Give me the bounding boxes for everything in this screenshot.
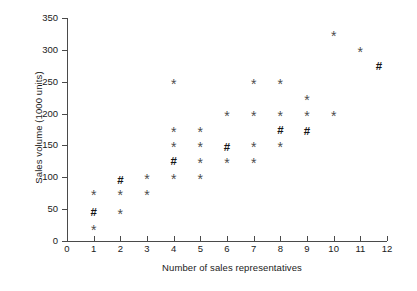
y-tick-label: 250 [30, 77, 58, 87]
x-tick-mark [334, 236, 335, 241]
x-tick-label: 5 [188, 243, 212, 254]
data-point: * [118, 208, 123, 220]
data-point: # [170, 155, 176, 167]
data-point: * [198, 126, 203, 138]
y-tick-mark [62, 241, 67, 242]
data-point: # [304, 125, 310, 137]
data-point: * [144, 189, 149, 201]
data-point: * [171, 126, 176, 138]
data-point: # [117, 174, 123, 186]
y-tick-label: 350 [30, 13, 58, 23]
data-point: * [91, 224, 96, 236]
x-tick-label: 8 [268, 243, 292, 254]
y-tick-mark [62, 18, 67, 19]
y-tick-mark [62, 209, 67, 210]
y-tick-label: 100 [30, 172, 58, 182]
x-tick-label: 11 [348, 243, 372, 254]
data-point: * [278, 110, 283, 122]
x-tick-mark [200, 236, 201, 241]
x-tick-label: 9 [295, 243, 319, 254]
data-point: * [304, 110, 309, 122]
x-tick-label: 7 [242, 243, 266, 254]
data-point: * [251, 78, 256, 90]
data-point: * [144, 173, 149, 185]
data-point: * [358, 46, 363, 58]
y-tick-label: 200 [30, 109, 58, 119]
data-point: * [304, 94, 309, 106]
data-point: * [171, 173, 176, 185]
data-point: # [90, 206, 96, 218]
x-axis-label: Number of sales representatives [67, 262, 397, 273]
data-point: * [91, 189, 96, 201]
data-point: # [277, 124, 283, 136]
x-tick-label: 2 [108, 243, 132, 254]
scatter-chart: Sales volume (1000 units) Number of sale… [0, 0, 417, 291]
x-tick-mark [120, 236, 121, 241]
data-point: * [118, 189, 123, 201]
y-tick-mark [62, 114, 67, 115]
data-point: # [376, 60, 382, 72]
data-point: * [251, 110, 256, 122]
data-point: * [224, 110, 229, 122]
data-point: * [198, 173, 203, 185]
data-point: * [198, 157, 203, 169]
x-tick-label: 3 [135, 243, 159, 254]
data-point: # [224, 141, 230, 153]
y-axis-label: Sales volume (1000 units) [33, 28, 44, 228]
data-point: * [331, 30, 336, 42]
x-tick-label: 1 [82, 243, 106, 254]
x-tick-label: 10 [322, 243, 346, 254]
y-tick-label: 150 [30, 140, 58, 150]
data-point: * [198, 141, 203, 153]
x-tick-mark [280, 236, 281, 241]
data-point: * [251, 141, 256, 153]
y-tick-mark [62, 177, 67, 178]
y-axis-line [67, 18, 68, 242]
x-tick-label: 0 [55, 243, 79, 254]
y-tick-label: 0 [30, 236, 58, 246]
x-tick-label: 6 [215, 243, 239, 254]
data-point: * [251, 157, 256, 169]
y-tick-mark [62, 50, 67, 51]
data-point: * [278, 78, 283, 90]
y-tick-mark [62, 145, 67, 146]
y-tick-label: 50 [30, 204, 58, 214]
data-point: * [171, 141, 176, 153]
x-tick-mark [147, 236, 148, 241]
data-point: * [331, 110, 336, 122]
data-point: * [278, 141, 283, 153]
data-point: * [224, 157, 229, 169]
y-tick-mark [62, 82, 67, 83]
data-point: * [171, 78, 176, 90]
x-tick-mark [227, 236, 228, 241]
y-tick-label: 300 [30, 45, 58, 55]
x-tick-mark [387, 236, 388, 241]
x-tick-label: 12 [375, 243, 399, 254]
x-tick-mark [307, 236, 308, 241]
x-tick-label: 4 [162, 243, 186, 254]
x-tick-mark [174, 236, 175, 241]
x-tick-mark [360, 236, 361, 241]
x-axis-line [67, 241, 387, 242]
x-tick-mark [254, 236, 255, 241]
